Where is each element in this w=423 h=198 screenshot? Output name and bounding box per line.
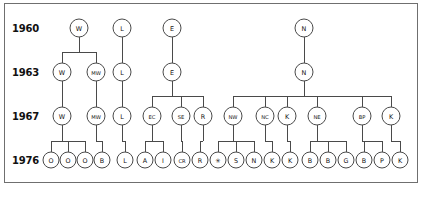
- node-label: B: [100, 157, 104, 165]
- link-group: [62, 37, 96, 63]
- node-label: O: [65, 157, 70, 165]
- node-label: NW: [228, 114, 237, 120]
- node-label: O: [48, 157, 53, 165]
- node-label: MW: [91, 70, 101, 76]
- link-group: [391, 125, 400, 152]
- pedigree-node[interactable]: SE: [172, 107, 190, 125]
- pedigree-node[interactable]: G: [338, 152, 354, 168]
- node-label: E: [170, 69, 174, 77]
- link-group: [287, 125, 290, 152]
- node-label: N: [302, 69, 307, 77]
- node-label: W: [76, 25, 83, 33]
- pedigree-node[interactable]: B: [94, 152, 110, 168]
- pedigree-node[interactable]: E: [163, 19, 181, 37]
- pedigree-chart-svg: WLENWMWLENWMWLECSERNWNCKNEBPKOOOBLAICRR✳…: [0, 0, 423, 198]
- pedigree-node[interactable]: NE: [308, 107, 326, 125]
- pedigree-node[interactable]: B: [356, 152, 372, 168]
- pedigree-node[interactable]: O: [77, 152, 93, 168]
- node-label: MW: [91, 114, 101, 120]
- pedigree-node[interactable]: N: [295, 63, 313, 81]
- link-group: [362, 125, 382, 152]
- pedigree-node[interactable]: L: [113, 63, 131, 81]
- pedigree-node[interactable]: B: [320, 152, 336, 168]
- pedigree-node[interactable]: MW: [87, 107, 105, 125]
- year-label-1963: 1963: [12, 67, 39, 78]
- pedigree-node[interactable]: EC: [143, 107, 161, 125]
- edges-layer: [51, 37, 400, 152]
- node-label: L: [120, 25, 124, 33]
- pedigree-node[interactable]: I: [155, 152, 171, 168]
- year-label-1967: 1967: [12, 111, 39, 122]
- pedigree-node[interactable]: ✳: [210, 152, 226, 168]
- year-label-1976: 1976: [12, 155, 39, 166]
- node-label: N: [252, 157, 257, 165]
- link-group: [218, 125, 254, 152]
- pedigree-node[interactable]: K: [278, 107, 296, 125]
- node-label: BP: [359, 114, 366, 120]
- node-label: SE: [178, 114, 185, 120]
- node-label: L: [120, 113, 124, 121]
- node-label: S: [234, 157, 238, 165]
- link-group: [310, 125, 346, 152]
- node-label: I: [162, 157, 164, 165]
- node-label: CR: [178, 158, 186, 164]
- pedigree-figure: WLENWMWLENWMWLECSERNWNCKNEBPKOOOBLAICRR✳…: [0, 0, 423, 198]
- pedigree-node[interactable]: BP: [353, 107, 371, 125]
- node-label: N: [302, 25, 307, 33]
- node-label: B: [362, 157, 366, 165]
- pedigree-node[interactable]: W: [53, 107, 71, 125]
- pedigree-node[interactable]: NW: [224, 107, 242, 125]
- node-label: R: [198, 157, 203, 165]
- pedigree-node[interactable]: O: [43, 152, 59, 168]
- node-label: W: [59, 69, 66, 77]
- pedigree-node[interactable]: L: [113, 19, 131, 37]
- pedigree-node[interactable]: W: [53, 63, 71, 81]
- node-label: B: [308, 157, 312, 165]
- link-group: [51, 125, 85, 152]
- pedigree-node[interactable]: K: [382, 107, 400, 125]
- pedigree-node[interactable]: W: [70, 19, 88, 37]
- year-label-1960: 1960: [12, 23, 39, 34]
- pedigree-node[interactable]: K: [392, 152, 408, 168]
- link-group: [145, 125, 163, 152]
- node-label: L: [123, 157, 127, 165]
- node-label: A: [143, 157, 148, 165]
- node-label: NC: [261, 114, 269, 120]
- pedigree-node[interactable]: O: [60, 152, 76, 168]
- node-label: NE: [313, 114, 320, 120]
- node-label: E: [170, 25, 174, 33]
- pedigree-node[interactable]: P: [374, 152, 390, 168]
- node-label: R: [201, 113, 206, 121]
- node-label: EC: [149, 114, 156, 120]
- pedigree-node[interactable]: A: [137, 152, 153, 168]
- pedigree-node[interactable]: B: [302, 152, 318, 168]
- link-group: [152, 81, 203, 107]
- pedigree-node[interactable]: R: [194, 107, 212, 125]
- node-label: W: [59, 113, 66, 121]
- link-group: [122, 125, 125, 152]
- pedigree-node[interactable]: L: [117, 152, 133, 168]
- node-label: ✳: [215, 157, 220, 165]
- link-group: [200, 125, 203, 152]
- node-label: B: [326, 157, 330, 165]
- pedigree-node[interactable]: N: [246, 152, 262, 168]
- node-label: L: [120, 69, 124, 77]
- pedigree-node[interactable]: E: [163, 63, 181, 81]
- nodes-layer: WLENWMWLENWMWLECSERNWNCKNEBPKOOOBLAICRR✳…: [43, 19, 408, 168]
- link-group: [233, 81, 391, 107]
- pedigree-node[interactable]: NC: [256, 107, 274, 125]
- pedigree-node[interactable]: MW: [87, 63, 105, 81]
- pedigree-node[interactable]: S: [228, 152, 244, 168]
- node-label: P: [380, 157, 384, 165]
- link-group: [265, 125, 272, 152]
- pedigree-node[interactable]: K: [264, 152, 280, 168]
- pedigree-node[interactable]: CR: [174, 152, 190, 168]
- pedigree-node[interactable]: R: [192, 152, 208, 168]
- link-group: [181, 125, 182, 152]
- pedigree-node[interactable]: K: [282, 152, 298, 168]
- node-label: O: [82, 157, 87, 165]
- year-labels-layer: 1960196319671976: [12, 23, 39, 166]
- link-group: [96, 125, 102, 152]
- pedigree-node[interactable]: L: [113, 107, 131, 125]
- pedigree-node[interactable]: N: [295, 19, 313, 37]
